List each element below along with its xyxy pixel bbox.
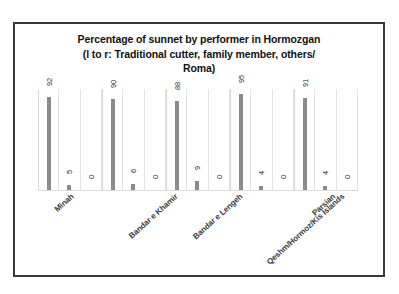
bar-slot: 4 [315,89,336,190]
axis-baseline [38,190,358,191]
bar-value-label: 0 [150,175,159,179]
bar-slot: 0 [81,89,102,190]
bar [303,98,307,190]
bar-slot: 0 [145,89,166,190]
bar-value-label: 0 [342,175,351,179]
bar [175,101,179,190]
bar [239,94,243,190]
bar-value-label: 5 [65,170,74,174]
chart-title-line-1: Percentage of sunnet by performer in Hor… [33,32,365,47]
bar-value-label: 0 [278,175,287,179]
bar-value-label: 92 [44,78,53,86]
x-axis-label-3: Qeshm/Hormoz/Kis Islands [265,192,346,266]
bar-slot: 6 [123,89,144,190]
bar-slot: 5 [59,89,80,190]
bar-slot: 0 [273,89,294,190]
bar [111,99,115,190]
bar-slot: 0 [337,89,358,190]
bar-value-label: 88 [172,82,181,90]
bar-value-label: 95 [236,75,245,83]
bar-value-label: 4 [321,171,330,175]
bar-slot: 90 [102,89,123,190]
bar-slot: 9 [187,89,208,190]
bar-value-label: 0 [214,175,223,179]
bar-slot: 88 [166,89,187,190]
bar-slot: 95 [230,89,251,190]
bar-slot: 92 [38,89,59,190]
x-axis-label-1: Bandar e Khamir [127,192,179,241]
bar-slot: 0 [209,89,230,190]
bar-value-label: 0 [86,175,95,179]
bar-value-label: 6 [129,169,138,173]
chart-title: Percentage of sunnet by performer in Hor… [33,32,365,76]
chart-title-line-2: (l to r: Traditional cutter, family memb… [33,47,365,62]
bar [47,97,51,190]
bar-value-label: 9 [193,166,202,170]
x-axis-label-0: Minah [52,192,75,214]
chart-frame: Percentage of sunnet by performer in Hor… [13,22,385,277]
x-axis-category-labels: MinahBandar e KhamirBandar e LengehQeshm… [38,192,358,292]
plot-area: 92509060889095409140 [38,89,358,190]
bar [195,181,199,190]
chart-title-line-3: Roma) [33,61,365,76]
x-axis-label-2: Bandar e Lengeh [191,192,244,241]
bar-slot: 4 [251,89,272,190]
bar-value-label: 91 [300,79,309,87]
bar-slot: 91 [294,89,315,190]
bar-value-label: 90 [108,80,117,88]
bar-value-label: 4 [257,171,266,175]
